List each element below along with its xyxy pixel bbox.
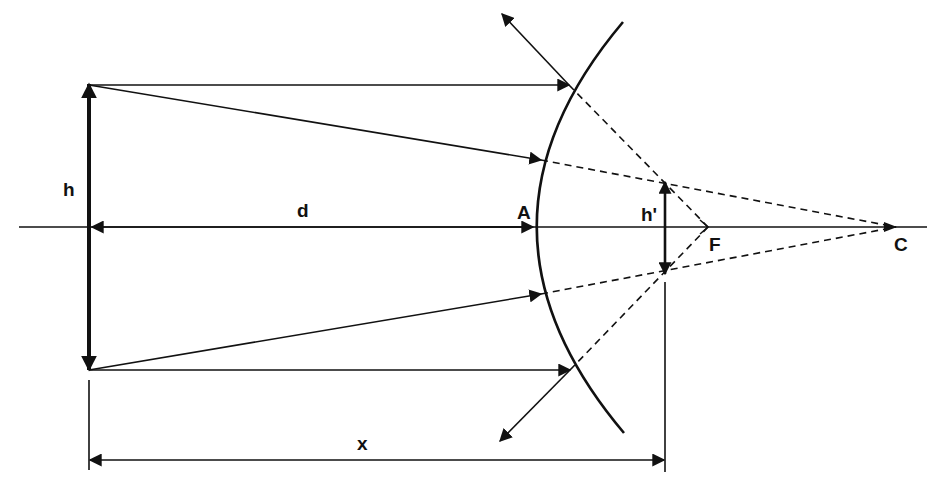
dashed-to-center-top (541, 160, 896, 227)
dashed-to-focus-bottom (570, 227, 708, 370)
dashed-to-focus-top (569, 85, 708, 227)
label-vertex-a: A (517, 203, 531, 222)
ray-diagram (0, 0, 939, 483)
reflected-ray-bottom (500, 370, 570, 441)
center-ray-bottom (89, 294, 541, 370)
label-object-height: h (63, 180, 75, 199)
center-ray-top (89, 85, 541, 160)
center-marker-icon (884, 222, 897, 232)
label-distance-d: d (297, 201, 309, 220)
label-focus-f: F (709, 235, 721, 254)
label-center-c: C (894, 235, 908, 254)
label-distance-x: x (357, 434, 368, 453)
reflected-ray-top (502, 14, 569, 85)
label-image-height: h' (641, 205, 657, 224)
